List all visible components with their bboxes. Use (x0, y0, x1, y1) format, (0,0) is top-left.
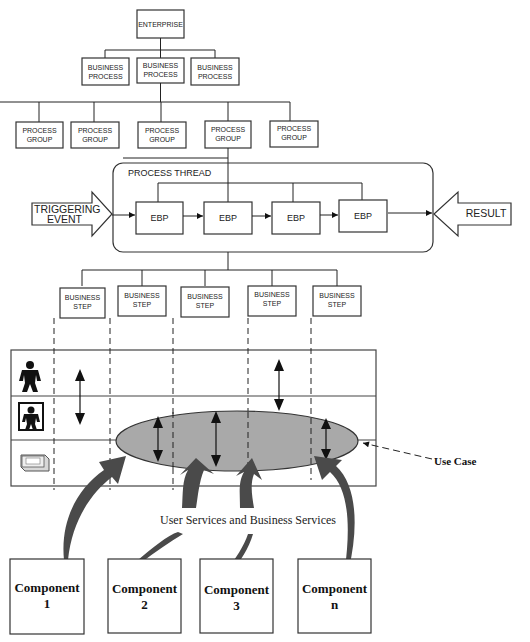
business-step-node: BUSINESS STEP (60, 288, 105, 318)
svg-text:PROCESS: PROCESS (143, 71, 178, 78)
svg-text:EBP: EBP (219, 213, 237, 223)
svg-text:GROUP: GROUP (149, 136, 175, 143)
business-step-node: BUSINESS STEP (118, 286, 166, 316)
svg-text:BUSINESS: BUSINESS (124, 292, 160, 299)
business-step-node: BUSINESS STEP (248, 286, 296, 316)
process-group-node: PROCESS GROUP (205, 121, 251, 148)
svg-text:BUSINESS: BUSINESS (65, 294, 101, 301)
process-group-node: PROCESS GROUP (16, 122, 63, 148)
business-process-node: BUSINESS PROCESS (137, 58, 184, 83)
svg-text:Component: Component (14, 580, 80, 595)
ebp-node: EBP (204, 202, 252, 234)
svg-text:BUSINESS: BUSINESS (254, 291, 290, 298)
process-group-node: PROCESS GROUP (71, 122, 119, 148)
use-case-label: Use Case (434, 455, 477, 467)
svg-text:EBP: EBP (287, 213, 305, 223)
svg-text:BUSINESS: BUSINESS (319, 292, 355, 299)
svg-text:PROCESS: PROCESS (211, 126, 246, 133)
svg-text:PROCESS: PROCESS (198, 73, 233, 80)
triggering-event-arrow: TRIGGERING EVENT (32, 192, 112, 236)
ebp-use-case-diagram: ENTERPRISE BUSINESS PROCESS BUSINESS PRO… (0, 0, 530, 642)
svg-text:STEP: STEP (263, 300, 282, 307)
svg-text:PROCESS: PROCESS (22, 127, 57, 134)
component-box: Component 3 (200, 559, 273, 633)
svg-text:STEP: STEP (133, 301, 152, 308)
svg-text:PROCESS: PROCESS (78, 127, 113, 134)
svg-text:3: 3 (233, 598, 240, 613)
user-interface-figure-icon (19, 403, 43, 430)
curved-arrow-icon (138, 532, 183, 562)
svg-text:STEP: STEP (196, 302, 215, 309)
computer-icon (21, 455, 49, 471)
ebp-node: EBP (339, 200, 387, 232)
svg-text:PROCESS: PROCESS (88, 73, 123, 80)
business-process-node: BUSINESS PROCESS (191, 58, 239, 85)
svg-text:BUSINESS: BUSINESS (88, 64, 124, 71)
svg-text:STEP: STEP (328, 301, 347, 308)
svg-text:Component: Component (204, 582, 270, 597)
svg-text:2: 2 (141, 597, 148, 612)
svg-text:STEP: STEP (73, 303, 92, 310)
svg-text:RESULT: RESULT (466, 207, 507, 219)
ebp-node: EBP (136, 202, 183, 234)
process-group-node: PROCESS GROUP (138, 122, 186, 148)
svg-text:n: n (331, 597, 339, 612)
use-case-callout: Use Case (363, 443, 477, 467)
ebp-node: EBP (272, 202, 320, 234)
svg-text:PROCESS: PROCESS (277, 125, 312, 132)
enterprise-node: ENTERPRISE (137, 10, 184, 38)
component-box: Component n (298, 559, 371, 633)
business-step-node: BUSINESS STEP (313, 286, 361, 316)
svg-text:EVENT: EVENT (47, 213, 83, 225)
component-box: Component 1 (10, 559, 84, 634)
svg-text:Component: Component (302, 581, 368, 596)
process-group-node: PROCESS GROUP (270, 121, 318, 147)
svg-text:EBP: EBP (354, 211, 372, 221)
svg-text:Component: Component (112, 581, 178, 596)
result-arrow: RESULT (434, 192, 511, 236)
business-process-node: BUSINESS PROCESS (82, 58, 129, 85)
svg-text:PROCESS: PROCESS (145, 127, 180, 134)
process-thread: PROCESS THREAD EBP EBP EBP EBP (112, 163, 433, 252)
enterprise-label: ENTERPRISE (138, 21, 183, 28)
services-label: User Services and Business Services (160, 513, 336, 527)
svg-text:GROUP: GROUP (27, 136, 53, 143)
component-box: Component 2 (108, 559, 181, 633)
svg-text:EBP: EBP (150, 213, 168, 223)
svg-text:BUSINESS: BUSINESS (143, 62, 179, 69)
svg-text:GROUP: GROUP (281, 134, 307, 141)
business-step-node: BUSINESS STEP (181, 287, 229, 317)
svg-text:1: 1 (44, 596, 51, 611)
svg-text:BUSINESS: BUSINESS (187, 293, 223, 300)
svg-text:GROUP: GROUP (82, 136, 108, 143)
svg-text:BUSINESS: BUSINESS (197, 64, 233, 71)
svg-text:GROUP: GROUP (215, 135, 241, 142)
process-thread-title: PROCESS THREAD (128, 168, 212, 178)
